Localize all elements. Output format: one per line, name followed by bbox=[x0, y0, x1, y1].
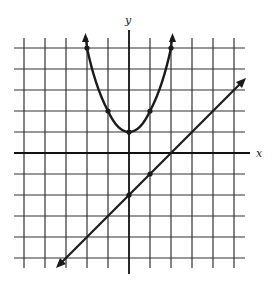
arrow-up-right-icon bbox=[169, 33, 176, 42]
y-axis-label: y bbox=[124, 14, 132, 27]
arrow-up-left-icon bbox=[82, 33, 89, 42]
x-axis-label: x bbox=[256, 147, 263, 160]
graph: x y bbox=[0, 0, 278, 288]
